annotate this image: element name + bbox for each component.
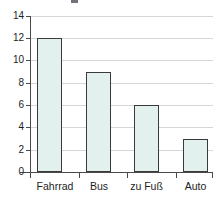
bar-fahrrad bbox=[37, 38, 62, 172]
y-tick-label-8: 8 bbox=[0, 78, 24, 88]
y-tick-4 bbox=[26, 127, 31, 128]
x-label-bus: Bus bbox=[73, 180, 125, 192]
y-tick-2 bbox=[26, 150, 31, 151]
y-tick-12 bbox=[26, 38, 31, 39]
bar-zu-fuss bbox=[134, 105, 159, 172]
x-label-auto: Auto bbox=[168, 180, 223, 192]
y-tick-label-12: 12 bbox=[0, 33, 24, 43]
y-tick-label-0: 0 bbox=[0, 167, 24, 177]
y-tick-6 bbox=[26, 105, 31, 106]
bar-bus bbox=[86, 72, 111, 172]
y-tick-label-14: 14 bbox=[0, 11, 24, 21]
y-tick-10 bbox=[26, 60, 31, 61]
y-tick-label-6: 6 bbox=[0, 100, 24, 110]
x-tick-0 bbox=[30, 173, 31, 178]
x-tick-1 bbox=[79, 173, 80, 178]
x-tick-4 bbox=[212, 173, 213, 178]
bar-auto bbox=[183, 139, 208, 172]
y-tick-label-2: 2 bbox=[0, 145, 24, 155]
x-tick-3 bbox=[176, 173, 177, 178]
y-tick-14 bbox=[26, 16, 31, 17]
y-tick-8 bbox=[26, 83, 31, 84]
x-tick-2 bbox=[127, 173, 128, 178]
gridline-14 bbox=[31, 16, 213, 17]
y-tick-label-4: 4 bbox=[0, 122, 24, 132]
bar-chart: 14 12 10 8 6 4 2 0 Fahrrad Bus zu bbox=[0, 0, 223, 201]
x-axis-line bbox=[20, 172, 213, 173]
y-tick-label-10: 10 bbox=[0, 55, 24, 65]
plot-area: 14 12 10 8 6 4 2 0 Fahrrad Bus zu bbox=[0, 0, 223, 201]
x-label-zu-fuss: zu Fuß bbox=[119, 180, 174, 192]
